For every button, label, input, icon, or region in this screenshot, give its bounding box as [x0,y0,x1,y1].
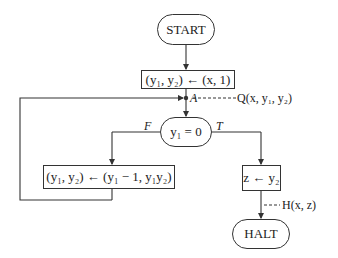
invariant-q-label: Q(x, y₁, y₂) [237,91,292,106]
loop-body-box: (y₁, y₂) ← (y₁ − 1, y₁y₂) [43,165,175,189]
assign-z-box: z ← y₂ [242,165,281,191]
true-branch-label: T [216,119,223,134]
start-terminal: START [157,14,215,45]
init-assignment-box: (y₁, y₂) ← (x, 1) [141,70,235,89]
output-assertion-label: H(x, z) [282,198,316,213]
false-branch-label: F [144,119,151,134]
halt-terminal: HALT [232,219,290,249]
test-decision: y₁ = 0 [160,117,212,147]
point-a-label: A [190,91,197,106]
